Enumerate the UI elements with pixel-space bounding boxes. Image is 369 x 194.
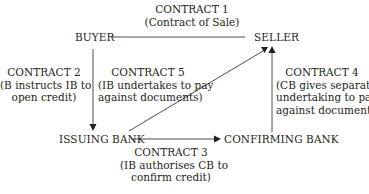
contract-4-description-line-2: undertaking to pay — [276, 91, 368, 104]
contract-2-label: CONTRACT 2 (B instructs IB to open credi… — [0, 66, 88, 104]
node-confirming-bank: CONFIRMING BANK — [224, 133, 339, 145]
contract-4-description-line-3: against documents) — [276, 104, 368, 117]
contract-5-description-line-1: (IB undertakes to pay — [98, 79, 198, 92]
contract-3-description-line-2: confirm credit) — [120, 171, 222, 184]
contract-5-arrowhead-icon — [261, 47, 268, 53]
node-seller: SELLER — [254, 31, 299, 43]
contract-4-description-line-1: (CB gives separate — [276, 79, 368, 92]
node-buyer: BUYER — [75, 31, 115, 43]
contract-3-title: CONTRACT 3 — [120, 146, 222, 159]
contract-4-label: CONTRACT 4 (CB gives separate undertakin… — [276, 66, 368, 116]
contract-2-description-line-1: (B instructs IB to — [0, 79, 88, 92]
contract-3-label: CONTRACT 3 (IB authorises CB to confirm … — [120, 146, 222, 184]
contract-4-title: CONTRACT 4 — [276, 66, 368, 79]
contract-3-arrowhead-icon — [214, 136, 221, 143]
contract-1-title: CONTRACT 1 — [142, 3, 242, 16]
contract-5-description-line-2: against documents) — [98, 91, 198, 104]
contract-1-description: (Contract of Sale) — [142, 16, 242, 29]
contract-2-description-line-2: open credit) — [0, 91, 88, 104]
contract-2-arrowhead-icon — [90, 124, 97, 131]
node-issuing-bank: ISSUING BANK — [59, 133, 145, 145]
contract-4-arrowhead-icon — [269, 46, 276, 53]
contract-1-label: CONTRACT 1 (Contract of Sale) — [142, 3, 242, 28]
contract-2-title: CONTRACT 2 — [0, 66, 88, 79]
contract-5-label: CONTRACT 5 (IB undertakes to pay against… — [98, 66, 198, 104]
contract-5-title: CONTRACT 5 — [98, 66, 198, 79]
contract-3-description-line-1: (IB authorises CB to — [120, 159, 222, 172]
